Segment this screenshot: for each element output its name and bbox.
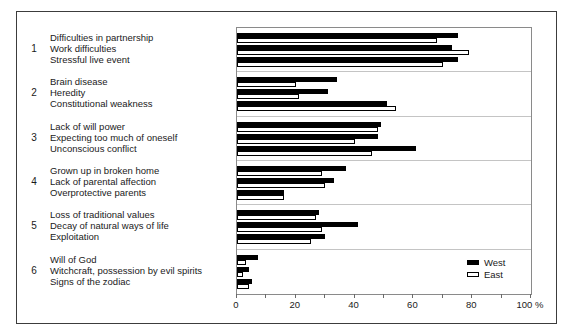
x-axis-tick xyxy=(295,294,296,298)
bar-east xyxy=(237,38,437,43)
bar-east xyxy=(237,127,378,132)
group-section xyxy=(237,72,531,116)
bar-east xyxy=(237,82,296,87)
item-label: Decay of natural ways of life xyxy=(50,220,169,231)
item-label: Heredity xyxy=(50,87,152,98)
x-axis-tick xyxy=(324,294,325,298)
item-label: Constitutional weakness xyxy=(50,98,152,109)
item-label: Witchcraft, possession by evil spirits xyxy=(50,265,202,276)
item-label: Overprotective parents xyxy=(50,187,159,198)
bar-east xyxy=(237,272,243,277)
group-section xyxy=(237,161,531,205)
item-label: Grown up in broken home xyxy=(50,165,159,176)
group-item-labels: Brain diseaseHeredityConstitutional weak… xyxy=(50,76,152,109)
x-axis-tick xyxy=(471,294,472,298)
x-axis-tick-label: 0 xyxy=(218,299,254,310)
item-label: Stressful live event xyxy=(50,54,153,65)
category-group: 5Loss of traditional valuesDecay of natu… xyxy=(24,209,169,242)
x-axis-tick-label: 40 xyxy=(336,299,372,310)
group-number: 1 xyxy=(24,43,44,54)
group-item-labels: Will of GodWitchcraft, possession by evi… xyxy=(50,254,202,287)
x-axis-tick xyxy=(501,294,502,298)
bar-east xyxy=(237,151,372,156)
x-axis-tick-label: 80 xyxy=(453,299,489,310)
x-axis-tick xyxy=(354,294,355,298)
group-item-labels: Loss of traditional valuesDecay of natur… xyxy=(50,209,169,242)
group-number: 2 xyxy=(24,87,44,98)
bar-east xyxy=(237,260,246,265)
category-group: 1Difficulties in partnershipWork difficu… xyxy=(24,32,153,65)
category-group: 2Brain diseaseHeredityConstitutional wea… xyxy=(24,76,152,109)
group-number: 4 xyxy=(24,176,44,187)
x-axis-tick xyxy=(236,294,237,298)
plot-area: West East xyxy=(236,27,532,295)
bar-east xyxy=(237,239,311,244)
item-label: Will of God xyxy=(50,254,202,265)
category-group: 4Grown up in broken homeLack of parental… xyxy=(24,165,159,198)
group-item-labels: Grown up in broken homeLack of parental … xyxy=(50,165,159,198)
bar-east xyxy=(237,284,249,289)
item-label: Lack of will power xyxy=(50,121,177,132)
group-section xyxy=(237,205,531,249)
group-item-labels: Difficulties in partnershipWork difficul… xyxy=(50,32,153,65)
x-axis-tick-label: 60 xyxy=(394,299,430,310)
category-group: 6Will of GodWitchcraft, possession by ev… xyxy=(24,254,202,287)
bar-east xyxy=(237,183,325,188)
bar-east xyxy=(237,195,284,200)
bar-east xyxy=(237,50,469,55)
item-label: Exploitation xyxy=(50,231,169,242)
item-label: Work difficulties xyxy=(50,43,153,54)
x-axis-tick xyxy=(412,294,413,298)
group-section xyxy=(237,28,531,72)
category-group: 3Lack of will powerExpecting too much of… xyxy=(24,121,177,154)
bar-east xyxy=(237,94,299,99)
group-number: 5 xyxy=(24,220,44,231)
group-section xyxy=(237,250,531,293)
bar-east xyxy=(237,106,396,111)
bar-east xyxy=(237,62,443,67)
x-axis-tick xyxy=(530,294,531,298)
item-label: Unconscious conflict xyxy=(50,143,177,154)
group-number: 6 xyxy=(24,265,44,276)
item-label: Brain disease xyxy=(50,76,152,87)
item-label: Signs of the zodiac xyxy=(50,276,202,287)
bar-east xyxy=(237,139,355,144)
x-axis-tick xyxy=(442,294,443,298)
bar-east xyxy=(237,227,322,232)
group-number: 3 xyxy=(24,132,44,143)
chart-canvas: 1Difficulties in partnershipWork difficu… xyxy=(0,0,576,336)
x-axis-tick-label: 100 % xyxy=(512,299,548,310)
x-axis-tick xyxy=(383,294,384,298)
group-item-labels: Lack of will powerExpecting too much of … xyxy=(50,121,177,154)
item-label: Loss of traditional values xyxy=(50,209,169,220)
bar-east xyxy=(237,215,316,220)
x-axis-tick xyxy=(265,294,266,298)
bar-east xyxy=(237,171,322,176)
group-section xyxy=(237,117,531,161)
item-label: Difficulties in partnership xyxy=(50,32,153,43)
item-label: Lack of parental affection xyxy=(50,176,159,187)
x-axis-tick-label: 20 xyxy=(277,299,313,310)
item-label: Expecting too much of oneself xyxy=(50,132,177,143)
